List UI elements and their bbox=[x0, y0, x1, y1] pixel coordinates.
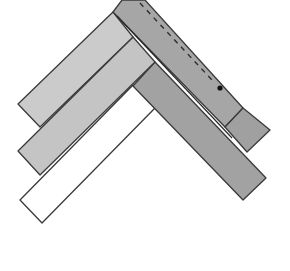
strips-layer bbox=[18, 0, 270, 223]
diagram-canvas bbox=[0, 0, 290, 271]
folded-strips-diagram bbox=[0, 0, 290, 271]
reference-dot-marker bbox=[217, 85, 222, 90]
